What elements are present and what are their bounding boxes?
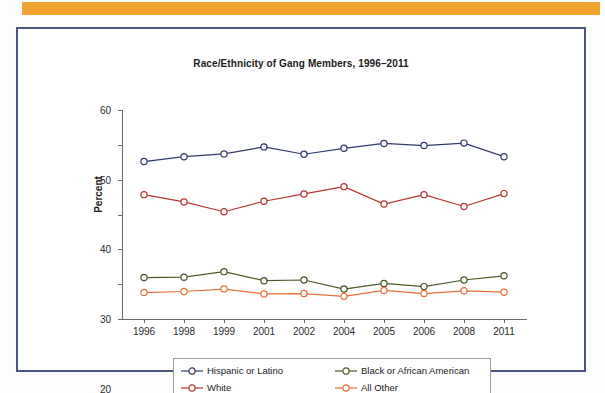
data-point-marker	[181, 199, 187, 205]
data-point-marker	[261, 278, 267, 284]
x-tick-mark	[464, 319, 465, 323]
x-tick-label: 2004	[333, 326, 355, 337]
legend-marker-icon	[334, 366, 358, 376]
data-point-marker	[381, 280, 387, 286]
y-tick-mark: 0	[118, 319, 122, 320]
data-point-marker	[501, 289, 507, 295]
data-point-marker	[501, 154, 507, 160]
y-tick-label: 60	[100, 105, 111, 116]
data-point-marker	[381, 140, 387, 146]
data-point-marker	[461, 140, 467, 146]
data-point-marker	[181, 154, 187, 160]
x-tick-mark	[184, 319, 185, 323]
data-point-marker	[381, 287, 387, 293]
legend-item-white[interactable]: White	[180, 382, 231, 393]
data-point-marker	[381, 201, 387, 207]
data-point-marker	[221, 209, 227, 215]
legend-row: All Other	[334, 379, 398, 393]
legend-marker-icon	[180, 366, 204, 376]
x-tick-label: 2001	[253, 326, 275, 337]
orange-banner	[22, 2, 600, 15]
data-point-marker	[141, 289, 147, 295]
data-point-marker	[261, 144, 267, 150]
data-point-marker	[181, 288, 187, 294]
series-hispanic-or-latino	[141, 140, 507, 165]
data-point-marker	[141, 274, 147, 280]
x-tick-mark	[144, 319, 145, 323]
x-tick-label: 2011	[493, 326, 515, 337]
data-point-marker	[141, 192, 147, 198]
data-point-marker	[501, 273, 507, 279]
x-tick-label: 2005	[373, 326, 395, 337]
x-tick-mark	[264, 319, 265, 323]
series-line	[144, 272, 504, 289]
chart-title: Race/Ethnicity of Gang Members, 1996–201…	[18, 58, 584, 69]
x-tick-label: 1996	[133, 326, 155, 337]
legend-item-hispanic-or-latino[interactable]: Hispanic or Latino	[180, 365, 283, 376]
legend-row: Black or African American	[334, 362, 469, 379]
y-tick-label: 40	[100, 244, 111, 255]
series-black-or-african-american	[141, 269, 507, 293]
series-line	[144, 289, 504, 296]
data-point-marker	[341, 293, 347, 299]
data-point-marker	[301, 290, 307, 296]
data-point-marker	[421, 284, 427, 290]
series-line	[144, 143, 504, 161]
y-tick-label: 20	[100, 383, 111, 393]
data-point-marker	[421, 142, 427, 148]
legend-label: White	[207, 382, 231, 393]
data-point-marker	[461, 277, 467, 283]
x-tick-mark	[344, 319, 345, 323]
data-point-marker	[421, 192, 427, 198]
data-point-marker	[221, 269, 227, 275]
series-line	[144, 187, 504, 212]
legend-row: Hispanic or Latino	[180, 362, 283, 379]
data-point-marker	[301, 191, 307, 197]
data-point-marker	[221, 286, 227, 292]
x-tick-label: 2006	[413, 326, 435, 337]
chart-legend: Hispanic or LatinoBlack or African Ameri…	[173, 358, 491, 393]
x-tick-label: 1998	[173, 326, 195, 337]
legend-item-black-or-african-american[interactable]: Black or African American	[334, 365, 469, 376]
legend-row: White	[180, 379, 231, 393]
data-point-marker	[461, 203, 467, 209]
data-point-marker	[181, 274, 187, 280]
x-tick-mark	[304, 319, 305, 323]
data-point-marker	[501, 191, 507, 197]
series-lines	[122, 110, 526, 319]
data-point-marker	[421, 290, 427, 296]
data-point-marker	[261, 291, 267, 297]
data-point-marker	[461, 288, 467, 294]
x-tick-label: 2008	[453, 326, 475, 337]
data-point-marker	[301, 151, 307, 157]
legend-marker-icon	[180, 383, 204, 393]
series-all-other	[141, 286, 507, 300]
data-point-marker	[261, 198, 267, 204]
data-point-marker	[341, 184, 347, 190]
plot-area: 0102030405060 19961998199920012002200420…	[122, 110, 526, 319]
data-point-marker	[341, 286, 347, 292]
legend-marker-icon	[334, 383, 358, 393]
x-tick-mark	[424, 319, 425, 323]
x-tick-mark	[224, 319, 225, 323]
x-tick-label: 2002	[293, 326, 315, 337]
x-axis-line	[122, 319, 527, 320]
series-white	[141, 184, 507, 215]
page-background: Race/Ethnicity of Gang Members, 1996–201…	[0, 0, 605, 393]
x-tick-mark	[504, 319, 505, 323]
chart-panel: Race/Ethnicity of Gang Members, 1996–201…	[16, 27, 586, 372]
x-tick-mark	[384, 319, 385, 323]
data-point-marker	[301, 277, 307, 283]
x-tick-label: 1999	[213, 326, 235, 337]
y-tick-label: 50	[100, 174, 111, 185]
legend-label: All Other	[361, 382, 398, 393]
data-point-marker	[341, 145, 347, 151]
legend-item-all-other[interactable]: All Other	[334, 382, 398, 393]
data-point-marker	[141, 158, 147, 164]
legend-label: Hispanic or Latino	[207, 365, 283, 376]
y-tick-label: 30	[100, 314, 111, 325]
legend-label: Black or African American	[361, 365, 469, 376]
data-point-marker	[221, 151, 227, 157]
